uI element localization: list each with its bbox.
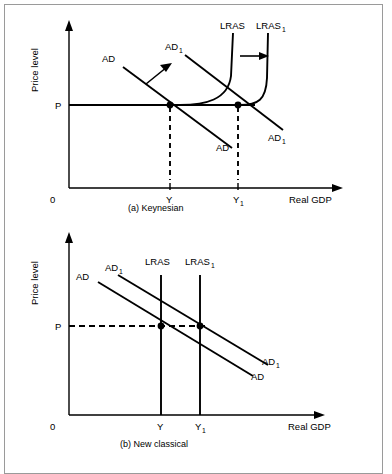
lras1-label-b: LRAS 1 [185, 256, 215, 269]
axes-group-a [65, 20, 343, 192]
origin-label-b: 0 [50, 421, 55, 432]
ad1-label-b: AD 1 [105, 262, 123, 275]
x-axis-label-a: Real GDP [289, 194, 332, 205]
equilibrium-dot-y1-b [197, 323, 204, 330]
ad1-label-right-b: AD 1 [262, 356, 280, 369]
svg-text:1: 1 [179, 47, 183, 54]
price-label-b: P [55, 321, 61, 332]
x-axis-label-b: Real GDP [288, 421, 331, 432]
svg-text:1: 1 [202, 427, 206, 434]
lras1-path-a [240, 33, 268, 105]
lras1-label-a: LRAS 1 [256, 20, 286, 33]
y-axis-arrowhead-a [65, 20, 73, 31]
x-axis-arrowhead-b [314, 411, 325, 419]
lras-label-a: LRAS [220, 20, 245, 31]
ad1-curve-a [185, 55, 283, 130]
panel-new-classical: Price level Real GDP 0 P Y Y 1 AD AD 1 A… [0, 225, 392, 465]
price-label-a: P [55, 100, 61, 111]
svg-text:AD: AD [268, 132, 281, 143]
lras-label-b: LRAS [145, 256, 170, 267]
svg-text:1: 1 [240, 200, 244, 207]
y-axis-label-b: Price level [29, 261, 40, 305]
svg-text:AD: AD [262, 356, 275, 367]
svg-text:AD: AD [165, 41, 178, 52]
ad-label-right-a: AD [216, 142, 229, 153]
y-axis-arrowhead-b [65, 232, 73, 243]
x-axis-arrowhead-a [332, 184, 343, 192]
lras-path-a [180, 33, 233, 105]
panel-caption-a: (a) Keynesian [128, 203, 184, 213]
panel-keynesian: Price level Real GDP 0 P Y Y 1 AD AD 1 A… [0, 0, 392, 225]
ad1-curve-b [118, 275, 268, 365]
ad-shift-arrow-a [146, 63, 172, 84]
ad-label-a: AD [102, 53, 115, 64]
svg-text:Y: Y [195, 421, 202, 432]
panel-caption-b: (b) New classical [120, 439, 188, 449]
svg-text:1: 1 [119, 268, 123, 275]
svg-text:1: 1 [276, 362, 280, 369]
x-tick-label-y1-a: Y 1 [233, 194, 244, 207]
ad1-label-a: AD 1 [165, 41, 183, 54]
lras-shift-arrow-a [240, 52, 269, 60]
svg-text:1: 1 [282, 138, 286, 145]
lras1-curve-a [240, 33, 268, 105]
svg-text:1: 1 [282, 26, 286, 33]
origin-label-a: 0 [50, 194, 55, 205]
svg-text:LRAS: LRAS [185, 256, 210, 267]
equilibrium-dot-y1-a [235, 102, 242, 109]
equilibrium-dot-y-a [167, 102, 174, 109]
ad-curve-b [98, 282, 253, 376]
ad-label-b: AD [76, 271, 89, 282]
ad1-label-right-a: AD 1 [268, 132, 286, 145]
svg-text:AD: AD [105, 262, 118, 273]
y-axis-label-a: Price level [29, 48, 40, 92]
svg-text:LRAS: LRAS [256, 20, 281, 31]
ad-label-right-b: AD [251, 371, 264, 382]
svg-text:1: 1 [211, 262, 215, 269]
lras-curve-a [180, 33, 233, 105]
x-tick-label-y-b: Y [157, 421, 164, 432]
equilibrium-dot-y-b [158, 323, 165, 330]
svg-text:Y: Y [233, 194, 240, 205]
x-tick-label-y1-b: Y 1 [195, 421, 206, 434]
